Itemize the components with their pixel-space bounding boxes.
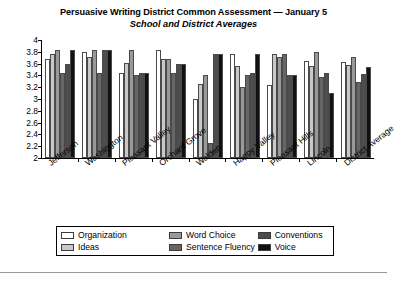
legend-label: Organization bbox=[78, 231, 127, 240]
y-axis-tick-label: 2.8 bbox=[26, 107, 38, 115]
y-axis-tick-label: 2.2 bbox=[26, 142, 38, 150]
y-axis-tick-mark bbox=[38, 75, 41, 76]
legend-label: Conventions bbox=[275, 231, 323, 240]
y-axis-tick-label: 3.2 bbox=[26, 83, 38, 91]
y-axis-tick-mark bbox=[38, 52, 41, 53]
legend-label: Sentence Fluency bbox=[186, 243, 255, 252]
legend-label: Ideas bbox=[78, 243, 99, 252]
legend-item[interactable]: Word Choice bbox=[169, 231, 258, 240]
y-axis-tick-labels: 43.83.63.43.232.82.62.42.22 bbox=[20, 36, 38, 158]
bar bbox=[218, 54, 223, 158]
y-axis-tick-label: 2.4 bbox=[26, 130, 38, 138]
legend-swatch bbox=[258, 232, 271, 239]
legend-item[interactable]: Ideas bbox=[61, 243, 169, 252]
legend-item[interactable]: Voice bbox=[258, 243, 329, 252]
y-axis-tick-label: 2.6 bbox=[26, 119, 38, 127]
y-axis-tick-mark bbox=[38, 87, 41, 88]
chart-title: Persuasive Writing District Common Asses… bbox=[0, 6, 387, 18]
y-axis-tick-mark bbox=[38, 146, 41, 147]
title-block: Persuasive Writing District Common Asses… bbox=[0, 0, 387, 30]
legend-label: Voice bbox=[275, 243, 296, 252]
y-axis-tick-mark bbox=[38, 134, 41, 135]
y-axis-tick-label: 3.8 bbox=[26, 48, 38, 56]
legend-swatch bbox=[169, 232, 182, 239]
chart-subtitle: School and District Averages bbox=[0, 18, 387, 30]
legend-swatch bbox=[61, 244, 74, 251]
y-axis-tick-mark bbox=[38, 158, 41, 159]
legend-swatch bbox=[258, 244, 271, 251]
x-axis-category-labels: JeffersonWashingtonPleasant ValleyOrchar… bbox=[42, 160, 374, 210]
y-axis-tick-mark bbox=[38, 40, 41, 41]
legend-label: Word Choice bbox=[186, 231, 236, 240]
y-axis-tick-mark bbox=[38, 123, 41, 124]
legend-swatch bbox=[169, 244, 182, 251]
legend-row: OrganizationWord ChoiceConventions bbox=[61, 229, 329, 241]
y-axis-tick-mark bbox=[38, 64, 41, 65]
bars-area bbox=[42, 40, 374, 158]
y-axis-tick-label: 3.6 bbox=[26, 60, 38, 68]
chart-legend: OrganizationWord ChoiceConventions Ideas… bbox=[56, 226, 334, 256]
legend-item[interactable]: Organization bbox=[61, 231, 169, 240]
y-axis-tick-label: 3.4 bbox=[26, 71, 38, 79]
y-axis-tick-mark bbox=[38, 111, 41, 112]
legend-item[interactable]: Sentence Fluency bbox=[169, 243, 258, 252]
legend-item[interactable]: Conventions bbox=[258, 231, 329, 240]
legend-swatch bbox=[61, 232, 74, 239]
bottom-divider bbox=[0, 272, 387, 273]
legend-row: IdeasSentence FluencyVoice bbox=[61, 241, 329, 253]
y-axis-tick-mark bbox=[38, 99, 41, 100]
